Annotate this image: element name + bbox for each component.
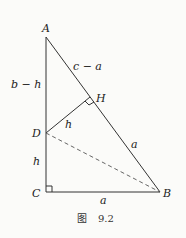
point-label-c: C [32,187,41,200]
segment-ab [46,37,160,192]
caption-prefix: 图 [77,213,87,224]
point-label-b: B [162,187,171,200]
label-hb: a [131,138,138,151]
caption-number: 9.2 [98,213,114,224]
label-ah: c − a [73,60,102,73]
segment-db-dashed [46,133,160,192]
point-label-d: D [31,127,41,140]
right-angle-marker-h [85,101,94,105]
point-label-a: A [41,22,50,35]
label-dc: h [33,155,40,168]
point-label-h: H [95,92,106,105]
label-cb: a [100,194,107,207]
label-dh: h [65,118,72,131]
right-angle-marker-c [46,186,52,192]
geometry-figure: A B C D H b − h c − a h h a a 图 9.2 [0,0,186,238]
label-ad: b − h [11,78,41,91]
